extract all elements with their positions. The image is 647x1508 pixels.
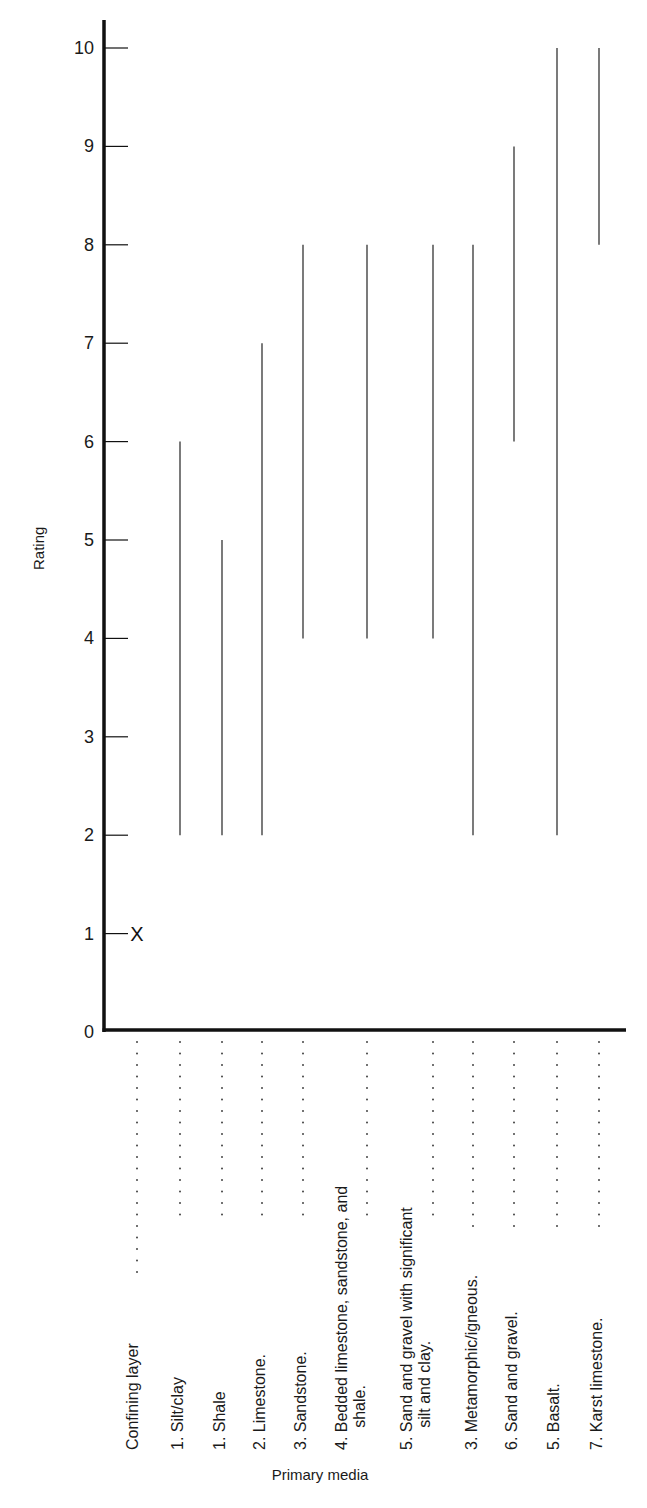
leader-dot xyxy=(472,1110,474,1112)
leader-dot xyxy=(472,1168,474,1170)
leader-dot xyxy=(598,1110,600,1112)
leader-dot xyxy=(136,1041,138,1043)
leader-dot xyxy=(432,1168,434,1170)
category-label: 1. Silt/clay xyxy=(169,1377,186,1450)
leader-dot xyxy=(472,1191,474,1193)
leader-dot xyxy=(261,1202,263,1204)
leader-dot xyxy=(136,1271,138,1273)
leader-dot xyxy=(136,1145,138,1147)
leader-dot xyxy=(432,1191,434,1193)
leader-dot xyxy=(432,1076,434,1078)
confining-layer-x-marker: X xyxy=(130,923,143,945)
leader-dot xyxy=(136,1179,138,1181)
leader-dot xyxy=(302,1145,304,1147)
leader-dot xyxy=(556,1064,558,1066)
leader-dot xyxy=(221,1053,223,1055)
y-tick-label: 2 xyxy=(54,825,94,845)
leader-dot xyxy=(261,1179,263,1181)
leader-dot xyxy=(366,1156,368,1158)
rating-range-chart: X Rating Primary media 012345678910 Conf… xyxy=(0,0,647,1508)
leader-dot xyxy=(261,1110,263,1112)
leader-dot xyxy=(136,1133,138,1135)
leader-dot xyxy=(261,1122,263,1124)
leader-dot xyxy=(513,1202,515,1204)
leader-dot xyxy=(179,1179,181,1181)
leader-dot xyxy=(598,1041,600,1043)
leader-dot xyxy=(302,1133,304,1135)
leader-dot xyxy=(472,1156,474,1158)
leader-dot xyxy=(513,1191,515,1193)
leader-dot xyxy=(513,1041,515,1043)
leader-dot xyxy=(261,1168,263,1170)
y-tick-label: 8 xyxy=(54,235,94,255)
leader-dot xyxy=(261,1133,263,1135)
leader-dot xyxy=(221,1087,223,1089)
leader-dot xyxy=(136,1202,138,1204)
leader-dot xyxy=(556,1053,558,1055)
leader-dot xyxy=(221,1202,223,1204)
leader-dot xyxy=(179,1156,181,1158)
leader-dot xyxy=(432,1041,434,1043)
leader-dot xyxy=(302,1041,304,1043)
leader-dot xyxy=(598,1191,600,1193)
leader-dot xyxy=(136,1110,138,1112)
y-tick-label: 6 xyxy=(54,432,94,452)
leader-dot xyxy=(179,1110,181,1112)
leader-dot xyxy=(366,1053,368,1055)
y-tick-label: 5 xyxy=(54,530,94,550)
leader-dot xyxy=(221,1145,223,1147)
leader-dot xyxy=(432,1064,434,1066)
category-label: 4. Bedded limestone, sandstone, and xyxy=(333,1186,350,1450)
leader-dot xyxy=(261,1053,263,1055)
leader-dot xyxy=(598,1099,600,1101)
leader-dot xyxy=(598,1179,600,1181)
y-tick-label: 1 xyxy=(54,924,94,944)
leader-dot xyxy=(472,1053,474,1055)
leader-dot xyxy=(366,1202,368,1204)
leader-dot xyxy=(598,1053,600,1055)
leader-dot xyxy=(179,1122,181,1124)
leader-dot xyxy=(513,1053,515,1055)
leader-dot xyxy=(366,1179,368,1181)
leader-dot xyxy=(598,1076,600,1078)
leader-dot xyxy=(136,1053,138,1055)
leader-dot xyxy=(472,1122,474,1124)
leader-dot xyxy=(366,1122,368,1124)
leader-dot xyxy=(179,1087,181,1089)
leader-dot xyxy=(472,1064,474,1066)
y-axis-label: Rating xyxy=(30,530,50,570)
leader-dot xyxy=(221,1179,223,1181)
leader-dot xyxy=(432,1133,434,1135)
leader-dot xyxy=(432,1145,434,1147)
leader-dot xyxy=(598,1064,600,1066)
leader-dot xyxy=(261,1076,263,1078)
leader-dot xyxy=(302,1179,304,1181)
leader-dot xyxy=(556,1225,558,1227)
leader-dot xyxy=(179,1191,181,1193)
leader-dot xyxy=(136,1225,138,1227)
leader-dot xyxy=(261,1064,263,1066)
leader-dot xyxy=(179,1133,181,1135)
leader-dot xyxy=(221,1168,223,1170)
leader-dot xyxy=(598,1133,600,1135)
leader-dot xyxy=(472,1214,474,1216)
leader-dot xyxy=(179,1168,181,1170)
leader-dot xyxy=(221,1191,223,1193)
leader-dot xyxy=(302,1214,304,1216)
leader-dot xyxy=(432,1053,434,1055)
leader-dot xyxy=(472,1087,474,1089)
leader-dot xyxy=(472,1145,474,1147)
leader-dot xyxy=(221,1041,223,1043)
leader-dot xyxy=(302,1122,304,1124)
category-label: 5. Sand and gravel with significant xyxy=(398,1207,415,1450)
category-label: 1. Shale xyxy=(211,1391,228,1450)
leader-dot xyxy=(366,1041,368,1043)
leader-dot xyxy=(366,1110,368,1112)
leader-dot xyxy=(302,1099,304,1101)
plot-area: X xyxy=(0,0,647,1508)
leader-dot xyxy=(366,1064,368,1066)
leader-dot xyxy=(598,1168,600,1170)
leader-dot xyxy=(302,1064,304,1066)
leader-dot xyxy=(366,1168,368,1170)
leader-dot xyxy=(556,1168,558,1170)
